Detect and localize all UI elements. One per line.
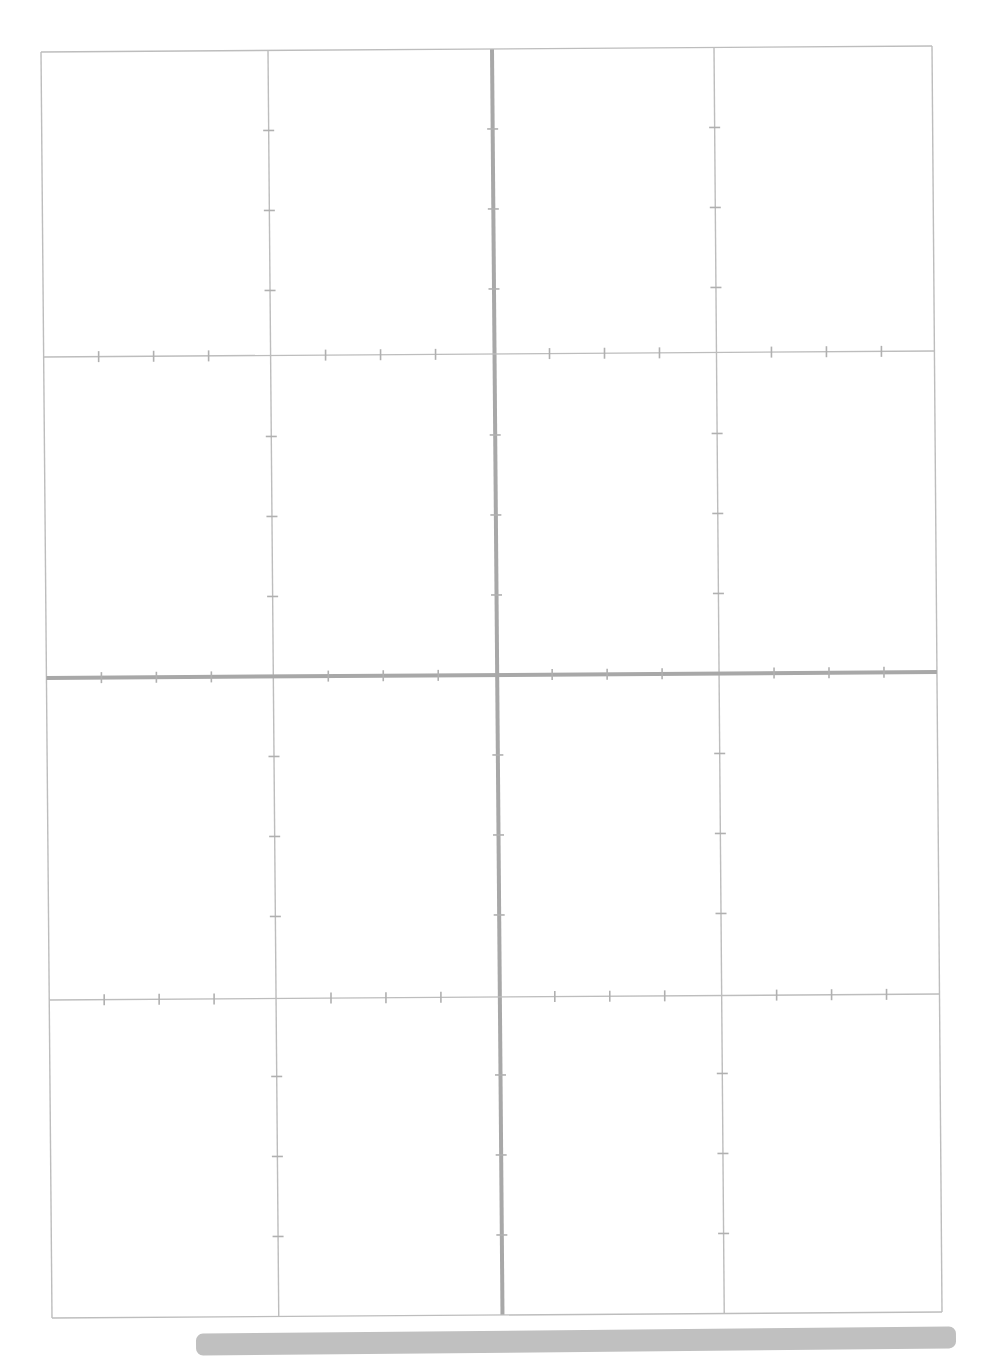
gridline-vertical-3 (714, 47, 724, 1313)
gray-bar (196, 1326, 956, 1355)
grid-border-vertical (932, 46, 942, 1312)
grid-border-horizontal (52, 1312, 942, 1318)
gridline-horizontal-1 (44, 351, 935, 357)
grid-root (41, 46, 942, 1318)
gridline-vertical-1 (268, 50, 279, 1316)
grid-border-horizontal (41, 46, 932, 52)
gray-bar-root (196, 1326, 956, 1355)
page-canvas: Cartesian coordinate grid gray-bar (0, 0, 986, 1358)
grid-border-vertical (41, 52, 52, 1318)
coordinate-grid (0, 0, 986, 1358)
y-axis-line (492, 49, 502, 1315)
x-axis-line (46, 672, 937, 678)
gridline-horizontal-3 (49, 994, 939, 1000)
